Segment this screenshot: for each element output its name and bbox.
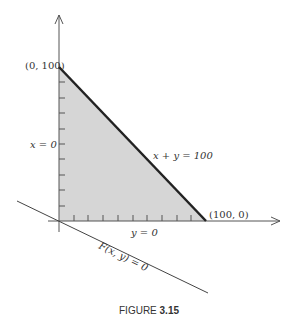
feasible-region-diagram: (0, 100) (100, 0) x = 0 y = 0 x + y = 10… bbox=[0, 0, 295, 323]
top-vertex-label: (0, 100) bbox=[25, 60, 65, 71]
y-axis-equation-label: x = 0 bbox=[30, 139, 57, 150]
right-vertex-label: (100, 0) bbox=[209, 209, 249, 220]
constraint-label: x + y = 100 bbox=[153, 150, 213, 161]
figure-caption: FIGURE 3.15 bbox=[119, 305, 179, 316]
caption-prefix: FIGURE bbox=[119, 305, 160, 316]
objective-line-label: F(x, y) = 0 bbox=[96, 239, 150, 273]
x-axis-equation-label: y = 0 bbox=[130, 227, 158, 238]
caption-number: 3.15 bbox=[160, 305, 180, 316]
